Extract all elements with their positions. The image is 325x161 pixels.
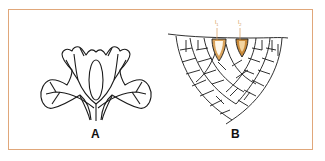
annotation-l2-subscript: 2: [239, 22, 241, 27]
panel-b-drawing: [168, 34, 288, 124]
annotation-l1-subscript: 1: [216, 22, 218, 27]
annotation-l1: l1: [215, 19, 219, 27]
diagram-canvas: [0, 0, 325, 161]
panel-label-b: B: [231, 127, 240, 141]
annotation-l2: l2: [238, 19, 242, 27]
initial-cells: [212, 39, 248, 61]
panel-a-drawing: [41, 47, 151, 121]
panel-label-a: A: [91, 127, 100, 141]
